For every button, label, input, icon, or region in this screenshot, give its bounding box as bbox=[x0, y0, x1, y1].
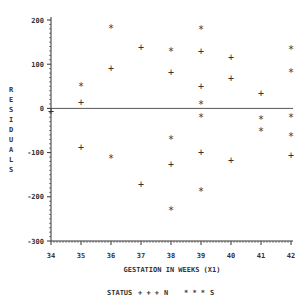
plus-marker-N: + bbox=[108, 63, 114, 74]
plus-marker-N: + bbox=[198, 46, 204, 57]
y-axis-title-letter: S bbox=[9, 106, 13, 114]
x-tick-label: 36 bbox=[107, 252, 115, 260]
x-axis-title: GESTATION IN WEEKS (X1) bbox=[124, 266, 221, 274]
legend-s-symbol: * * * bbox=[184, 289, 205, 297]
asterisk-marker-S: * bbox=[78, 81, 84, 92]
asterisk-marker-S: * bbox=[258, 114, 264, 125]
y-tick-label: 0 bbox=[40, 105, 44, 113]
y-tick-label: -200 bbox=[27, 193, 44, 201]
y-axis-title-letter: E bbox=[9, 96, 13, 104]
plus-marker-N: + bbox=[228, 155, 234, 166]
asterisk-marker-S: * bbox=[168, 46, 174, 57]
y-axis-title-letter: A bbox=[9, 146, 14, 154]
x-tick-label: 37 bbox=[137, 252, 145, 260]
asterisk-marker-S: * bbox=[168, 205, 174, 216]
plus-marker-N: + bbox=[228, 73, 234, 84]
data-points: ++++++++++++++++**************** bbox=[48, 23, 294, 216]
plus-marker-N: + bbox=[78, 97, 84, 108]
asterisk-marker-S: * bbox=[108, 23, 114, 34]
asterisk-marker-S: * bbox=[108, 153, 114, 164]
asterisk-marker-S: * bbox=[198, 24, 204, 35]
legend: STATUS + + + N * * * S bbox=[107, 289, 214, 297]
y-tick-label: -100 bbox=[27, 149, 44, 157]
residual-scatter-plot: 2001000-100-200-300 343536373839404142 +… bbox=[0, 0, 306, 307]
y-axis-title-letter: U bbox=[9, 136, 13, 144]
plus-marker-N: + bbox=[138, 42, 144, 53]
plus-marker-N: + bbox=[138, 179, 144, 190]
y-axis-title-letter: R bbox=[9, 86, 14, 94]
y-axis-title-letter: I bbox=[9, 116, 13, 124]
y-axis-title-letter: S bbox=[9, 166, 13, 174]
x-tick-label: 40 bbox=[227, 252, 235, 260]
asterisk-marker-S: * bbox=[198, 186, 204, 197]
asterisk-marker-S: * bbox=[288, 67, 294, 78]
asterisk-marker-S: * bbox=[288, 131, 294, 142]
x-tick-label: 39 bbox=[197, 252, 205, 260]
y-axis: 2001000-100-200-300 bbox=[27, 17, 51, 246]
asterisk-marker-S: * bbox=[168, 134, 174, 145]
y-axis-title: RESIDUALS bbox=[9, 86, 14, 174]
plus-marker-N: + bbox=[288, 150, 294, 161]
asterisk-marker-S: * bbox=[288, 44, 294, 55]
x-tick-label: 42 bbox=[287, 252, 295, 260]
x-tick-label: 35 bbox=[77, 252, 85, 260]
plus-marker-N: + bbox=[228, 52, 234, 63]
x-tick-label: 34 bbox=[47, 252, 55, 260]
x-tick-label: 41 bbox=[257, 252, 265, 260]
asterisk-marker-S: * bbox=[258, 126, 264, 137]
legend-n-label: N bbox=[164, 289, 168, 297]
plus-marker-N: + bbox=[168, 67, 174, 78]
legend-n-symbol: + + + bbox=[138, 289, 159, 297]
y-tick-label: 200 bbox=[31, 17, 44, 25]
x-axis: 343536373839404142 bbox=[47, 241, 295, 260]
asterisk-marker-S: * bbox=[198, 99, 204, 110]
plus-marker-N: + bbox=[78, 142, 84, 153]
plus-marker-N: + bbox=[198, 81, 204, 92]
legend-s-label: S bbox=[210, 289, 214, 297]
y-axis-title-letter: D bbox=[9, 126, 13, 134]
y-axis-title-letter: L bbox=[9, 156, 13, 164]
y-tick-label: -300 bbox=[27, 238, 44, 246]
asterisk-marker-S: * bbox=[198, 112, 204, 123]
legend-title: STATUS bbox=[107, 289, 132, 297]
plus-marker-N: + bbox=[168, 159, 174, 170]
asterisk-marker-S: * bbox=[288, 112, 294, 123]
x-tick-label: 38 bbox=[167, 252, 175, 260]
y-tick-label: 100 bbox=[31, 61, 44, 69]
plus-marker-N: + bbox=[258, 88, 264, 99]
plus-marker-N: + bbox=[198, 147, 204, 158]
plus-marker-N: + bbox=[48, 106, 54, 117]
